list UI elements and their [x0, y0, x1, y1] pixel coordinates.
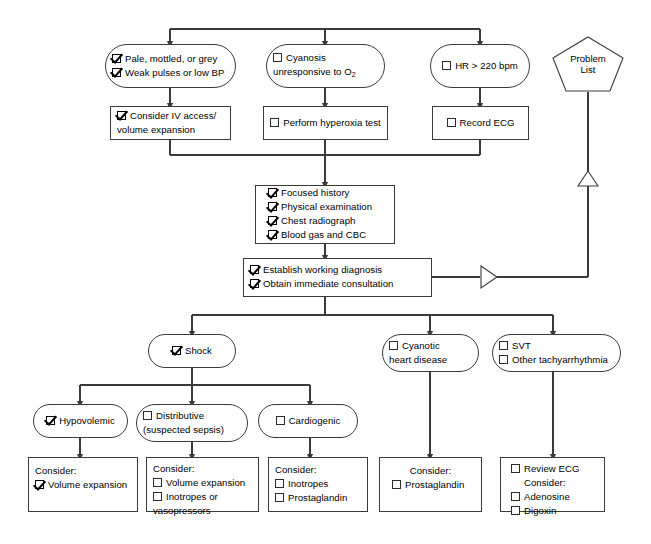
- checkbox-checked[interactable]: [112, 68, 121, 77]
- item-label: Distributive: [156, 410, 204, 423]
- connector-triangle-right: [481, 266, 497, 288]
- checklist-row[interactable]: Digoxin: [505, 505, 604, 518]
- problem-list-label: Problem List: [570, 53, 606, 76]
- checklist-row[interactable]: Hypovolemic: [40, 415, 120, 428]
- checklist-row[interactable]: Prostaglandin: [380, 479, 481, 492]
- consider-label: Consider:: [275, 464, 317, 477]
- checklist-row[interactable]: Cardiogenic: [270, 415, 347, 428]
- checklist-row[interactable]: Establish working diagnosis: [244, 264, 431, 277]
- checkbox-checked[interactable]: [250, 265, 259, 274]
- checklist-row[interactable]: Review ECG: [505, 463, 604, 476]
- checkbox-unchecked[interactable]: [270, 118, 279, 127]
- checklist-row[interactable]: Focused history: [262, 187, 394, 200]
- checkbox-unchecked[interactable]: [499, 355, 508, 364]
- checkbox-unchecked[interactable]: [511, 464, 520, 473]
- checkbox-unchecked[interactable]: [511, 492, 520, 501]
- cardiogenic-node[interactable]: Cardiogenic: [258, 404, 358, 438]
- checklist-row[interactable]: Chest radiograph: [262, 215, 394, 228]
- checkbox-unchecked[interactable]: [511, 506, 520, 515]
- checkbox-checked[interactable]: [250, 279, 259, 288]
- working-diagnosis-node[interactable]: Establish working diagnosis Obtain immed…: [243, 258, 432, 297]
- checkbox-unchecked[interactable]: [499, 341, 508, 350]
- checklist-row[interactable]: Consider IV access/: [111, 110, 230, 123]
- checkbox-unchecked[interactable]: [273, 53, 282, 62]
- treatment-distributive-node[interactable]: Consider: Volume expansion Inotropes or …: [146, 457, 259, 512]
- consider-iv-access-node[interactable]: Consider IV access/ volume expansion: [110, 106, 231, 140]
- item-label: Digoxin: [524, 505, 556, 518]
- checkbox-checked[interactable]: [46, 416, 55, 425]
- checklist-row[interactable]: Prostaglandin: [269, 492, 367, 505]
- checklist-row-continuation: unresponsive to O2: [267, 66, 384, 80]
- distributive-node[interactable]: Distributive (suspected sepsis): [136, 404, 248, 442]
- checkbox-unchecked[interactable]: [392, 480, 401, 489]
- checkbox-checked[interactable]: [268, 230, 277, 239]
- svt-node[interactable]: SVT Other tachyarrhythmia: [492, 334, 621, 372]
- checklist-row[interactable]: Blood gas and CBC: [262, 229, 394, 242]
- consider-label: Consider:: [524, 477, 566, 490]
- checklist-row[interactable]: Weak pulses or low BP: [106, 67, 235, 80]
- item-label: (suspected sepsis): [143, 424, 224, 437]
- treatment-cyanotic-node[interactable]: Consider: Prostaglandin: [379, 457, 482, 512]
- checklist-row[interactable]: Other tachyarrhythmia: [493, 354, 620, 367]
- checklist-row[interactable]: SVT: [493, 340, 620, 353]
- checkbox-unchecked[interactable]: [389, 341, 398, 350]
- hr-node[interactable]: HR > 220 bpm: [430, 44, 530, 88]
- item-label: Record ECG: [460, 117, 515, 130]
- record-ecg-node[interactable]: Record ECG: [432, 106, 529, 140]
- treatment-hypovolemic-node[interactable]: Consider: Volume expansion: [28, 457, 138, 512]
- checklist-row[interactable]: Distributive: [137, 410, 247, 423]
- checklist-row[interactable]: HR > 220 bpm: [436, 60, 524, 73]
- treatment-cardiogenic-node[interactable]: Consider: Inotropes Prostaglandin: [268, 457, 368, 512]
- cyanosis-node[interactable]: Cyanosis unresponsive to O2: [266, 44, 385, 88]
- consider-label: Consider:: [410, 465, 452, 478]
- checkbox-unchecked[interactable]: [276, 416, 285, 425]
- problem-list-node[interactable]: Problem List: [551, 36, 625, 92]
- checklist-row[interactable]: Physical examination: [262, 201, 394, 214]
- consider-label-row: Consider:: [147, 463, 258, 476]
- checkbox-checked[interactable]: [268, 188, 277, 197]
- consider-label: Consider:: [35, 465, 77, 478]
- checkbox-checked[interactable]: [35, 480, 44, 489]
- checklist-row[interactable]: Adenosine: [505, 491, 604, 504]
- checklist-row[interactable]: Volume expansion: [29, 479, 137, 492]
- hypovolemic-node[interactable]: Hypovolemic: [33, 404, 128, 438]
- item-label: volume expansion: [117, 124, 195, 137]
- item-label: Obtain immediate consultation: [263, 278, 394, 291]
- checkbox-checked[interactable]: [268, 202, 277, 211]
- checkbox-unchecked[interactable]: [143, 411, 152, 420]
- checklist-row[interactable]: Perform hyperoxia test: [264, 117, 387, 130]
- checkbox-unchecked[interactable]: [153, 492, 162, 501]
- checkbox-checked[interactable]: [112, 54, 121, 63]
- problem-list-line2: List: [570, 64, 606, 76]
- item-label: Pale, mottled, or grey: [125, 53, 217, 66]
- checklist-row[interactable]: Inotropes or: [147, 491, 258, 504]
- checklist-row[interactable]: Pale, mottled, or grey: [106, 53, 235, 66]
- checkbox-unchecked[interactable]: [447, 118, 456, 127]
- checkbox-checked[interactable]: [268, 216, 277, 225]
- perform-hyperoxia-test-node[interactable]: Perform hyperoxia test: [263, 106, 388, 140]
- checkbox-checked[interactable]: [117, 111, 126, 120]
- checklist-row[interactable]: Record ECG: [441, 117, 521, 130]
- checkbox-checked[interactable]: [172, 346, 181, 355]
- consider-label-row: Consider:: [380, 465, 481, 478]
- item-label: Cyanosis: [286, 52, 326, 65]
- item-label: Perform hyperoxia test: [283, 117, 381, 130]
- checklist-row[interactable]: Volume expansion: [147, 477, 258, 490]
- checkbox-unchecked[interactable]: [442, 61, 451, 70]
- checklist-row[interactable]: Shock: [166, 345, 218, 358]
- treatment-svt-node[interactable]: Review ECG Consider: Adenosine Digoxin: [500, 457, 605, 512]
- item-label: Prostaglandin: [405, 479, 464, 492]
- shock-node[interactable]: Shock: [148, 334, 236, 368]
- checkbox-unchecked[interactable]: [153, 478, 162, 487]
- cyanotic-heart-disease-node[interactable]: Cyanotic heart disease: [382, 334, 479, 372]
- item-label: Prostaglandin: [288, 492, 347, 505]
- checklist-row[interactable]: Obtain immediate consultation: [244, 278, 431, 291]
- checkbox-unchecked[interactable]: [275, 493, 284, 502]
- item-subscript: 2: [352, 66, 356, 80]
- checklist-row[interactable]: Cyanosis: [267, 52, 384, 65]
- checklist-row[interactable]: Cyanotic: [383, 340, 478, 353]
- pale-mottled-grey-node[interactable]: Pale, mottled, or grey Weak pulses or lo…: [105, 44, 236, 88]
- checkbox-unchecked[interactable]: [275, 479, 284, 488]
- workup-node[interactable]: Focused history Physical examination Che…: [255, 185, 395, 244]
- checklist-row[interactable]: Inotropes: [269, 478, 367, 491]
